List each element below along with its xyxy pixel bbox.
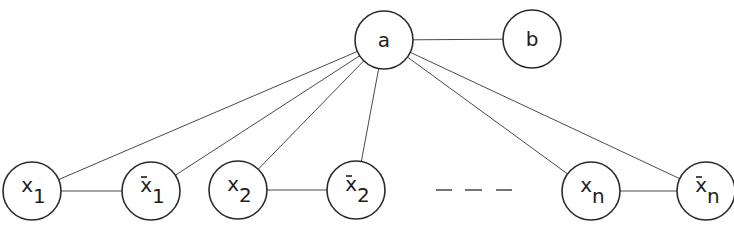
node-x1bar: x1 [122, 162, 180, 220]
node-x1: x1 [3, 162, 61, 220]
edge-a-x1 [59, 51, 358, 179]
node-x2bar: x2 [327, 161, 385, 219]
edge-a-b [413, 39, 503, 40]
node-subscript: 1 [33, 184, 46, 208]
edge-a-x2bar [361, 69, 378, 162]
node-label: x [21, 173, 33, 197]
node-a: a [355, 11, 413, 69]
node-subscript: 2 [239, 183, 252, 207]
node-label: x [580, 173, 592, 197]
edge-a-xn [407, 57, 567, 174]
graph-diagram: abx1x1x2x2xnxn [0, 0, 734, 237]
nodes-layer: abx1x1x2x2xnxn [3, 10, 734, 220]
edge-a-xnbar [410, 52, 679, 178]
edge-a-x1bar [175, 56, 359, 175]
node-xn: xn [562, 162, 620, 220]
node-xnbar: xn [677, 162, 734, 220]
node-label: x [227, 172, 239, 196]
node-x2: x2 [209, 161, 267, 219]
node-label: b [526, 27, 539, 51]
node-subscript: 2 [357, 183, 370, 207]
node-subscript: n [707, 184, 720, 208]
node-label: a [378, 28, 390, 52]
node-subscript: 1 [152, 184, 165, 208]
edge-a-x2 [258, 61, 364, 169]
node-subscript: n [592, 184, 605, 208]
node-b: b [503, 10, 561, 68]
